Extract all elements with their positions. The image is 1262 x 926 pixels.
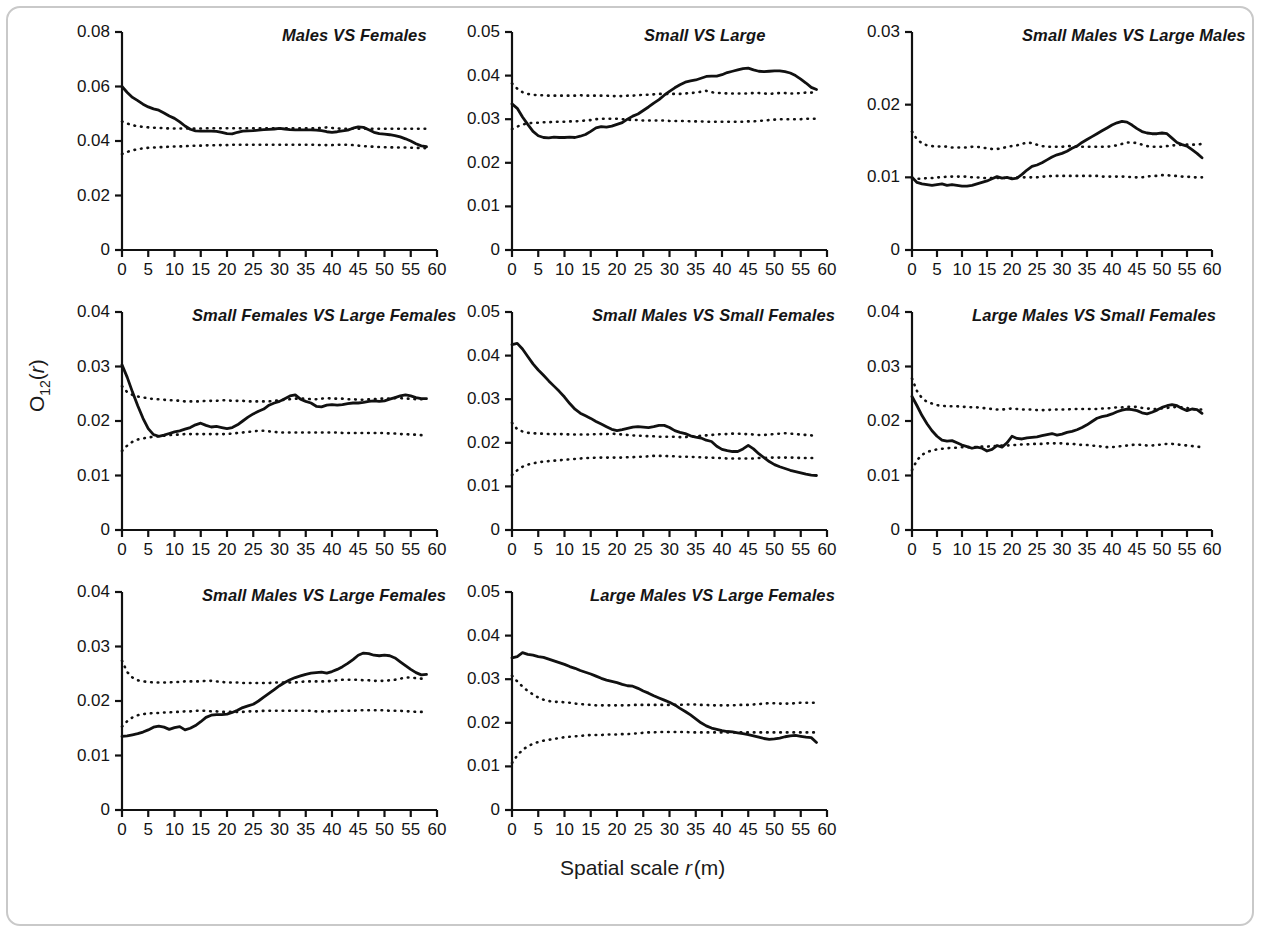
figure-frame [6,6,1254,926]
y-axis-label: O12(r) [25,341,52,431]
x-axis-label: Spatial scale r (m) [560,856,725,880]
y-axis-label-text: O12(r) [25,359,48,412]
x-axis-label-text: Spatial scale r (m) [560,856,725,879]
